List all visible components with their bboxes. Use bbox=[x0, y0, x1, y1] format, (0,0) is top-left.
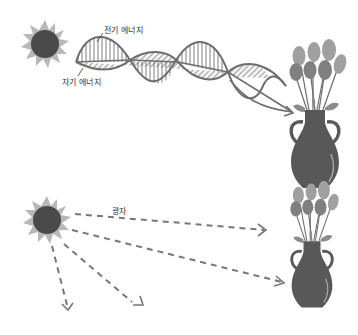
particle-panel bbox=[23, 181, 340, 310]
sun-icon bbox=[21, 20, 69, 68]
sun-icon bbox=[23, 196, 71, 244]
electric-energy-label: 전기 에너지 bbox=[104, 24, 143, 35]
flower-vase-icon bbox=[290, 181, 340, 308]
wave-panel bbox=[21, 20, 348, 188]
flower-vase-icon bbox=[290, 39, 349, 188]
photon-arrows bbox=[52, 214, 282, 305]
diagram-canvas bbox=[0, 0, 358, 335]
photon-label: 광자 bbox=[112, 205, 126, 216]
magnetic-energy-label: 자기 에너지 bbox=[62, 76, 101, 87]
